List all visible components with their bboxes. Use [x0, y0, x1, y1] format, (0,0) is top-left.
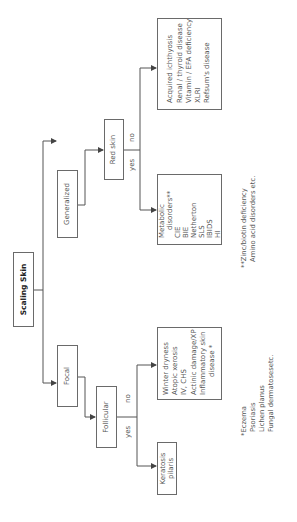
outcome-item: Refsum's disease [203, 19, 212, 103]
edge-label-red-skin-no: no [128, 133, 136, 142]
outcome-item: Acquired ichthyosis [166, 19, 175, 103]
outcome-item: Actinic damage/XP [190, 329, 199, 395]
node-generalized-label: Generalized [63, 183, 72, 225]
footnote-single-star: *Eczema Psoriasis Lichen planus Fungal d… [240, 355, 276, 436]
outcome-item: SLS [198, 191, 206, 238]
node-focal: Focal [57, 345, 78, 407]
decision-follicular: Follicular [96, 386, 117, 448]
edge-label-follicular-no: no [124, 394, 132, 403]
footnote-line: Fungal dermatosesetc. [267, 355, 276, 436]
outcome-item: pilaris [167, 458, 175, 479]
outcome-item: Atopic xerosis [171, 329, 180, 395]
outcome-item: Keratosis [159, 453, 167, 485]
node-generalized: Generalized [57, 170, 78, 238]
edge-label-follicular-yes: yes [124, 426, 132, 438]
outcome-item: Renal / thyroid disease [176, 19, 185, 103]
decision-follicular-label: Follicular [102, 401, 111, 432]
outcome-item: IV, CHS [180, 329, 189, 395]
outcome-item: IBIDS [206, 191, 214, 238]
outcome-item: Metabolic [158, 191, 166, 238]
footnote-double-star: **Zinc/biotin deficiency Amino acid diso… [240, 176, 258, 268]
decision-red-skin-label: Red skin [109, 135, 118, 165]
outcome-item: HI [214, 191, 222, 238]
outcome-item: BIE [182, 191, 190, 238]
outcome-item: XLRI [194, 19, 203, 103]
node-focal-label: Focal [63, 367, 72, 385]
outcome-item: Inflammatory skin [199, 329, 208, 395]
footnote-line: Psoriasis [249, 355, 258, 436]
outcome-item: Netherton [190, 191, 198, 238]
outcome-red-generalized: Metabolic disorders** CIE BIE Netherton … [157, 174, 222, 245]
outcome-non-red-generalized: Acquired ichthyosis Renal / thyroid dise… [157, 18, 222, 110]
footnote-line: **Zinc/biotin deficiency [240, 176, 249, 268]
outcome-item: Vitamin / EFA deficiency [185, 19, 194, 103]
decision-red-skin: Red skin [104, 119, 124, 180]
footnote-line: *Eczema [240, 355, 249, 436]
root-node-label: Scaling Skin [19, 264, 28, 316]
outcome-non-follicular-focal: Winter dryness Atopic xerosis IV, CHS Ac… [157, 327, 222, 400]
root-node-scaling-skin: Scaling Skin [13, 252, 34, 327]
footnote-line: Amino acid disorders etc. [249, 176, 258, 268]
outcome-item: disorders** [166, 191, 174, 238]
outcome-item: CIE [174, 191, 182, 238]
outcome-item: Winter dryness [162, 329, 171, 395]
outcome-item: disease * [208, 329, 217, 395]
scaling-skin-flowchart: Scaling Skin Generalized Focal Red skin … [0, 0, 297, 522]
outcome-follicular-focal: Keratosis pilaris [157, 442, 177, 495]
edge-label-red-skin-yes: yes [128, 159, 136, 171]
footnote-line: Lichen planus [258, 355, 267, 436]
